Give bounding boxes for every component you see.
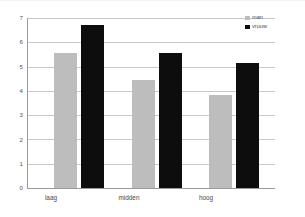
legend-swatch-black-icon — [245, 25, 250, 30]
bar-midden-vrouw — [159, 53, 182, 188]
bar-hoog-vrouw — [236, 63, 259, 188]
legend-label-vrouw: vrouw — [252, 24, 267, 30]
y-tick-label: 4 — [5, 88, 23, 94]
legend-swatch-grey-icon — [245, 16, 250, 21]
legend-item-vrouw: vrouw — [245, 23, 301, 31]
y-tick-label: 2 — [5, 137, 23, 143]
y-tick-label: 5 — [5, 64, 23, 70]
legend: man vrouw — [245, 14, 301, 32]
x-category-label-hoog: hoog — [176, 195, 236, 201]
y-tick-label: 1 — [5, 161, 23, 167]
x-category-label-laag: laag — [21, 195, 81, 201]
gridline-6 — [28, 42, 275, 43]
bar-laag-vrouw — [81, 25, 104, 188]
y-tick-label: 6 — [5, 39, 23, 45]
gridline-7 — [28, 18, 275, 19]
bar-chart: 7 6 5 4 3 2 1 0 laag midden hoog man — [0, 0, 305, 217]
y-tick-label: 3 — [5, 112, 23, 118]
x-category-label-midden: midden — [99, 195, 159, 201]
legend-item-man: man — [245, 14, 301, 22]
y-tick-label: 7 — [5, 15, 23, 21]
bar-hoog-man — [209, 95, 232, 189]
y-tick-label: 0 — [5, 185, 23, 191]
plot-area — [27, 18, 275, 189]
bar-midden-man — [132, 80, 155, 188]
legend-label-man: man — [252, 15, 263, 21]
bar-laag-man — [54, 53, 77, 188]
